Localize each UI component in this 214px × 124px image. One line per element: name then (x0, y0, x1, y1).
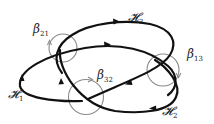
loop-circle (49, 34, 77, 62)
arrow-icon (113, 19, 120, 25)
label-beta21: β21 (32, 22, 49, 38)
label-h3: 𝓗3 (128, 10, 144, 26)
arrow-icon (59, 78, 65, 85)
label-beta32: β32 (96, 68, 113, 84)
loop-beta32 (69, 77, 104, 115)
loop-beta21 (48, 34, 78, 62)
label-beta13: β13 (186, 47, 203, 63)
link-diagram: 𝓗1 𝓗2 𝓗3 β21 β13 β32 (0, 0, 214, 124)
label-h2: 𝓗2 (162, 104, 178, 120)
